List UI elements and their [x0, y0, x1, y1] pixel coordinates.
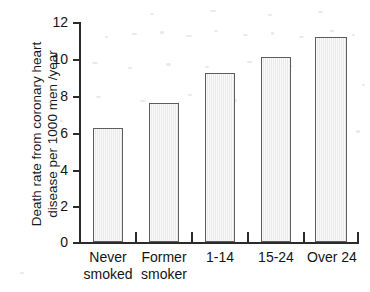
bar-never-smoked — [93, 128, 123, 242]
x-tick-4 — [303, 232, 305, 243]
y-tick-label-8: 8 — [28, 89, 68, 103]
bar-1-14 — [205, 73, 235, 242]
y-tick-6 — [73, 133, 80, 135]
y-tick-label-0: 0 — [28, 235, 68, 249]
y-tick-label-4: 4 — [28, 163, 68, 177]
x-category-label-line-1: Former — [136, 249, 192, 266]
bar-former-smoker — [149, 103, 179, 242]
y-tick-label-2: 2 — [28, 199, 68, 213]
x-tick-5 — [357, 232, 359, 243]
bar-15-24 — [261, 57, 291, 242]
x-tick-1 — [135, 232, 137, 243]
bar-chart: Death rate from coronary heart disease p… — [0, 0, 370, 292]
y-tick-4 — [73, 170, 80, 172]
y-tick-label-12: 12 — [28, 15, 68, 29]
x-category-label-15-24: 15-24 — [248, 249, 304, 266]
x-tick-3 — [247, 232, 249, 243]
y-tick-10 — [73, 59, 80, 61]
x-category-label-former-smoker: Former smoker — [136, 249, 192, 283]
x-category-label-line-1: 15-24 — [248, 249, 304, 266]
bar-over-24 — [315, 37, 347, 242]
x-tick-2 — [191, 232, 193, 243]
y-tick-2 — [73, 206, 80, 208]
x-category-label-1-14: 1-14 — [192, 249, 248, 266]
y-tick-12 — [73, 22, 80, 24]
y-tick-label-6: 6 — [28, 126, 68, 140]
x-category-label-line-1: Over 24 — [303, 249, 361, 266]
x-axis-line — [79, 242, 359, 244]
x-category-label-line-1: 1-14 — [192, 249, 248, 266]
x-category-label-over-24: Over 24 — [303, 249, 361, 266]
x-category-label-line-2: smoker — [136, 266, 192, 283]
x-tick-0 — [79, 232, 81, 243]
y-tick-label-10: 10 — [28, 52, 68, 66]
x-category-label-line-2: smoked — [80, 266, 136, 283]
y-tick-8 — [73, 96, 80, 98]
x-category-label-line-1: Never — [80, 249, 136, 266]
x-category-label-never-smoked: Never smoked — [80, 249, 136, 283]
